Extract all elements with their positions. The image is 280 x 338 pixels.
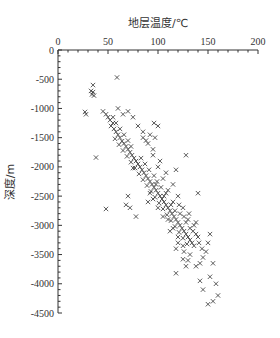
data-point-marker <box>182 249 186 253</box>
data-point-marker <box>169 203 173 207</box>
data-point-marker <box>196 235 200 239</box>
data-point-marker <box>116 133 120 137</box>
x-tick-label: 100 <box>151 36 166 47</box>
y-tick-label: -4500 <box>31 308 54 319</box>
y-tick-label: -500 <box>36 74 54 85</box>
data-point-marker <box>112 127 116 131</box>
data-point-marker <box>140 168 144 172</box>
data-point-marker <box>129 160 133 164</box>
data-point-marker <box>173 209 177 213</box>
data-point-marker <box>192 244 196 248</box>
data-point-marker <box>137 172 141 176</box>
data-point-marker <box>174 217 178 221</box>
data-point-marker <box>206 302 210 306</box>
data-point-marker <box>114 121 118 125</box>
data-point-marker <box>211 261 215 265</box>
data-point-marker <box>162 194 166 198</box>
data-point-marker <box>151 197 155 201</box>
x-tick-label: 200 <box>251 36 266 47</box>
data-point-marker <box>188 238 192 242</box>
data-point-marker <box>184 153 188 157</box>
data-point-marker <box>158 194 162 198</box>
data-point-marker <box>126 194 130 198</box>
scatter-chart: 地层温度/℃ 050100150200 0-500-1000-1500-2000… <box>0 0 280 338</box>
data-point-marker <box>142 171 146 175</box>
data-point-marker <box>116 106 120 110</box>
data-point-marker <box>200 247 204 251</box>
data-point-marker <box>104 112 108 116</box>
data-point-marker <box>148 133 152 137</box>
x-axis: 050100150200 <box>56 36 266 54</box>
data-point-marker <box>148 191 152 195</box>
data-point-marker <box>194 264 198 268</box>
data-point-marker <box>129 144 133 148</box>
data-point-marker <box>156 165 160 169</box>
data-point-marker <box>161 176 165 180</box>
data-point-marker <box>124 203 128 207</box>
data-point-marker <box>146 141 150 145</box>
data-point-marker <box>161 214 165 218</box>
data-point-marker <box>152 121 156 125</box>
x-tick-label: 50 <box>103 36 113 47</box>
data-point-marker <box>201 255 205 259</box>
data-point-marker <box>160 197 164 201</box>
data-point-marker <box>168 229 172 233</box>
data-point-marker <box>94 155 98 159</box>
data-point-marker <box>164 171 168 175</box>
data-point-marker <box>132 156 136 160</box>
data-point-marker <box>122 141 126 145</box>
data-point-marker <box>128 150 132 154</box>
y-tick-label: -2000 <box>31 161 54 172</box>
data-point-marker <box>182 214 186 218</box>
data-point-marker <box>118 127 122 131</box>
data-point-marker <box>122 133 126 137</box>
data-point-marker <box>194 232 198 236</box>
y-tick-label: -3500 <box>31 249 54 260</box>
data-point-marker <box>190 241 194 245</box>
data-point-marker <box>125 154 129 158</box>
data-point-marker <box>184 220 188 224</box>
data-point-marker <box>134 214 138 218</box>
data-point-marker <box>198 261 202 265</box>
data-point-marker <box>208 275 212 279</box>
data-point-marker <box>146 176 150 180</box>
data-point-marker <box>126 138 130 142</box>
data-point-marker <box>91 83 95 87</box>
data-point-marker <box>176 194 180 198</box>
data-point-marker <box>194 220 198 224</box>
data-point-marker <box>146 200 150 204</box>
data-point-marker <box>92 93 96 97</box>
data-points <box>83 75 220 306</box>
data-point-marker <box>188 252 192 256</box>
data-point-marker <box>154 188 158 192</box>
data-point-marker <box>208 232 212 236</box>
x-axis-title: 地层温度/℃ <box>128 16 188 30</box>
data-point-marker <box>114 130 118 134</box>
data-point-marker <box>148 179 152 183</box>
data-point-marker <box>138 165 142 169</box>
data-point-marker <box>192 223 196 227</box>
data-point-marker <box>151 153 155 157</box>
data-point-marker <box>126 109 130 113</box>
data-point-marker <box>174 168 178 172</box>
data-point-marker <box>214 282 218 286</box>
data-point-marker <box>172 214 176 218</box>
data-point-marker <box>181 236 185 240</box>
data-point-marker <box>165 213 169 217</box>
data-point-marker <box>166 188 170 192</box>
y-tick-label: -1500 <box>31 132 54 143</box>
data-point-marker <box>174 247 178 251</box>
data-point-marker <box>134 159 138 163</box>
data-point-marker <box>130 153 134 157</box>
data-point-marker <box>136 162 140 166</box>
data-point-marker <box>151 147 155 151</box>
data-point-marker <box>145 183 149 187</box>
data-point-marker <box>168 209 172 213</box>
y-tick-label: -3000 <box>31 220 54 231</box>
data-point-marker <box>139 156 143 160</box>
data-point-marker <box>157 201 161 205</box>
data-point-marker <box>147 168 151 172</box>
data-point-marker <box>136 124 140 128</box>
data-point-marker <box>186 235 190 239</box>
data-point-marker <box>198 279 202 283</box>
